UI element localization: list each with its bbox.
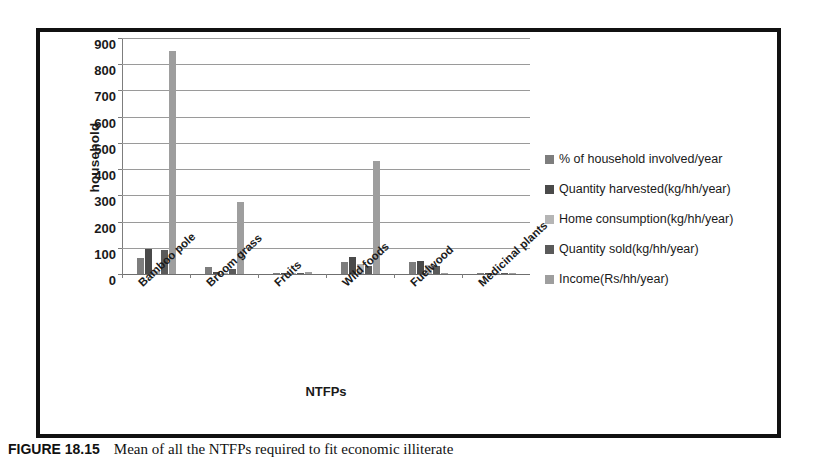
x-axis-tick-mark (394, 274, 395, 278)
y-axis-tick-label: 0 (76, 274, 116, 287)
legend-swatch-icon (545, 245, 554, 254)
bar-cluster (258, 38, 326, 274)
legend-swatch-icon (545, 215, 554, 224)
y-axis-tick-label: 900 (76, 38, 116, 51)
bar (137, 258, 144, 274)
bar (501, 273, 508, 274)
y-axis-tick-label: 400 (76, 169, 116, 182)
x-axis-tick-mark (326, 274, 327, 278)
bar-cluster (394, 38, 462, 274)
bar (305, 272, 312, 274)
y-axis-tick-label: 600 (76, 116, 116, 129)
x-axis-category-labels: Bamboo poleBroom grassFruitsWild foodsFu… (122, 280, 530, 368)
legend-label: Home consumption(kg/hh/year) (559, 212, 733, 227)
figure-frame: household 9008007006005004003002001000 B… (36, 28, 781, 438)
figure-caption-number: FIGURE 18.15 (8, 441, 100, 457)
figure-caption: FIGURE 18.15Mean of all the NTFPs requir… (8, 441, 811, 458)
legend-item: Quantity harvested(kg/hh/year) (545, 182, 785, 197)
legend-label: Quantity harvested(kg/hh/year) (559, 182, 731, 197)
y-axis-tick-label: 100 (76, 247, 116, 260)
bar (297, 273, 304, 274)
legend-swatch-icon (545, 275, 554, 284)
bar (169, 51, 176, 274)
legend-label: Income(Rs/hh/year) (559, 272, 669, 287)
legend-item: Quantity sold(kg/hh/year) (545, 242, 785, 257)
x-axis-tick-mark (190, 274, 191, 278)
legend-swatch-icon (545, 185, 554, 194)
legend-item: % of household involved/year (545, 152, 785, 167)
y-axis-tick-label: 300 (76, 195, 116, 208)
y-axis-tick-label: 200 (76, 221, 116, 234)
x-axis-tick-mark (258, 274, 259, 278)
bar (441, 273, 448, 274)
x-axis-tick-mark (122, 274, 123, 278)
legend-swatch-icon (545, 155, 554, 164)
x-axis-title: NTFPs (122, 384, 530, 399)
legend-item: Home consumption(kg/hh/year) (545, 212, 785, 227)
chart-area: household 9008007006005004003002001000 B… (40, 32, 777, 434)
y-axis-tick-labels: 9008007006005004003002001000 (76, 38, 116, 274)
x-axis-tick-mark (462, 274, 463, 278)
chart-legend: % of household involved/yearQuantity har… (545, 152, 785, 302)
y-axis-tick-label: 800 (76, 64, 116, 77)
legend-item: Income(Rs/hh/year) (545, 272, 785, 287)
y-axis-tick-label: 500 (76, 142, 116, 155)
y-axis-tick-label: 700 (76, 90, 116, 103)
bar-cluster (326, 38, 394, 274)
bar (509, 273, 516, 274)
legend-label: % of household involved/year (559, 152, 722, 167)
figure-caption-text: Mean of all the NTFPs required to fit ec… (114, 441, 454, 457)
legend-label: Quantity sold(kg/hh/year) (559, 242, 699, 257)
